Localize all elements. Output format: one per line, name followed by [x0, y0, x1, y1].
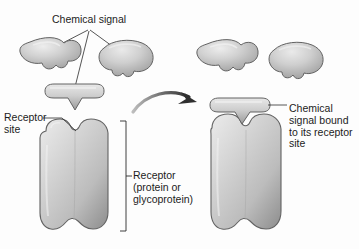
- label-bound-signal: Chemicalsignal boundto its receptorsite: [289, 103, 353, 150]
- receptor-protein-body: [40, 119, 108, 229]
- label-bound-line4: site: [289, 137, 305, 149]
- label-bound-line3: to its receptor: [289, 126, 353, 138]
- binding-transition-arrow: [133, 92, 197, 112]
- chemical-signal-molecule-lobed: [20, 38, 81, 69]
- label-chemical-signal: Chemical signal: [52, 14, 126, 26]
- label-receptor-protein-line1: Receptor: [133, 169, 176, 181]
- label-bound-line1: Chemical: [289, 102, 333, 114]
- label-receptor-site-line2: site: [4, 123, 20, 135]
- chemical-signal-molecule-kidney: [99, 40, 153, 76]
- label-receptor-site-line1: Receptor: [4, 111, 47, 123]
- chemical-signal-molecule-lobed-free: [197, 40, 258, 71]
- signal-receptor-diagram: Chemical signal Receptorsite Receptor(pr…: [0, 0, 359, 249]
- label-receptor-protein-line2: (protein or: [133, 181, 181, 193]
- chemical-signal-molecule-kidney-free: [269, 42, 323, 78]
- receptor-with-bound-signal: [210, 98, 281, 229]
- label-receptor-protein-line3: glycoprotein): [133, 193, 193, 205]
- label-receptor-protein: Receptor(protein orglycoprotein): [133, 170, 193, 205]
- label-bound-line2: signal bound: [289, 114, 349, 126]
- chemical-signal-molecule-wedge: [45, 84, 104, 110]
- receptor-extent-bracket: [120, 121, 132, 231]
- label-receptor-site: Receptorsite: [4, 112, 47, 136]
